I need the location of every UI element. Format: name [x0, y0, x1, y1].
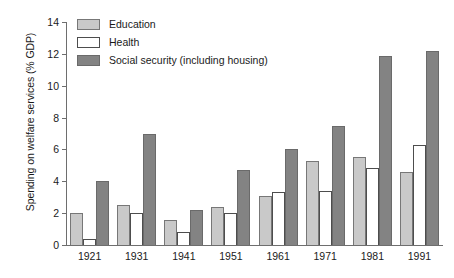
x-tick-label: 1921 — [66, 250, 113, 262]
bar-education — [211, 207, 224, 245]
legend-item-health: Health — [77, 36, 268, 48]
bar-group: 1991 — [396, 22, 443, 245]
bar-group: 1981 — [349, 22, 396, 245]
x-axis-line — [66, 245, 443, 246]
bar-set — [302, 22, 349, 245]
y-tick-label-2: 2 — [53, 207, 59, 219]
y-tick-label-0: 0 — [53, 239, 59, 251]
bar-education — [117, 205, 130, 245]
legend-label-education: Education — [109, 18, 156, 30]
legend-label-social-security: Social security (including housing) — [109, 54, 268, 66]
bar-social — [285, 149, 298, 245]
y-tick-label-4: 4 — [53, 175, 59, 187]
x-tick-label: 1991 — [396, 250, 443, 262]
x-tick-label: 1941 — [160, 250, 207, 262]
bar-education — [400, 172, 413, 245]
bar-social — [96, 181, 109, 245]
bar-health — [319, 191, 332, 245]
bar-health — [272, 192, 285, 245]
legend-swatch-education — [77, 19, 100, 30]
bar-health — [83, 239, 96, 245]
y-axis-title: Spending on welfare services (% GDP) — [24, 6, 36, 238]
bar-social — [237, 170, 250, 245]
bar-health — [177, 232, 190, 245]
bar-chart: Spending on welfare services (% GDP) 0 2… — [0, 0, 454, 278]
legend-item-social-security: Social security (including housing) — [77, 54, 268, 66]
y-tick-label-8: 8 — [53, 112, 59, 124]
legend-item-education: Education — [77, 18, 268, 30]
bar-education — [259, 196, 272, 245]
bar-health — [366, 168, 379, 245]
bar-education — [164, 220, 177, 245]
bar-health — [130, 213, 143, 245]
bar-social — [190, 210, 203, 245]
y-tick-label-6: 6 — [53, 143, 59, 155]
legend-swatch-social-security — [77, 55, 100, 66]
bar-group: 1971 — [302, 22, 349, 245]
y-tick-label-10: 10 — [47, 80, 59, 92]
bar-social — [143, 134, 156, 246]
bar-education — [353, 157, 366, 245]
y-tick-label-14: 14 — [47, 16, 59, 28]
x-tick-label: 1931 — [113, 250, 160, 262]
x-tick-label: 1981 — [349, 250, 396, 262]
legend-swatch-health — [77, 37, 100, 48]
bar-set — [396, 22, 443, 245]
bar-social — [426, 51, 439, 245]
bar-health — [413, 145, 426, 245]
x-tick-label: 1951 — [207, 250, 254, 262]
legend-label-health: Health — [109, 36, 139, 48]
x-tick-label: 1971 — [302, 250, 349, 262]
bar-social — [379, 56, 392, 245]
legend: Education Health Social security (includ… — [77, 18, 268, 66]
bar-health — [224, 213, 237, 245]
y-tick-label-12: 12 — [47, 48, 59, 60]
bar-set — [349, 22, 396, 245]
bar-education — [306, 161, 319, 245]
bar-social — [332, 126, 345, 245]
bar-education — [70, 213, 83, 245]
x-tick-label: 1961 — [255, 250, 302, 262]
